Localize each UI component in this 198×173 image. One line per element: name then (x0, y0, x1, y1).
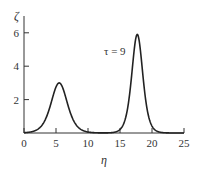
x-tick-label: 5 (53, 137, 59, 149)
chart: 246 0510152025 ζ η τ = 9 (0, 0, 198, 173)
y-tick-label: 4 (14, 60, 20, 72)
x-tick-label: 10 (83, 137, 95, 149)
x-tick-label: 15 (115, 137, 127, 149)
y-tick-label: 6 (14, 27, 20, 39)
y-tick-label: 2 (14, 94, 20, 106)
x-tick-label: 20 (147, 137, 159, 149)
tau-annotation: τ = 9 (104, 45, 126, 57)
x-axis-label: η (101, 153, 107, 167)
y-axis-label: ζ (14, 9, 20, 23)
x-tick-label: 25 (179, 137, 191, 149)
x-ticks: 0510152025 (21, 128, 190, 149)
y-ticks: 246 (14, 27, 30, 106)
x-tick-label: 0 (21, 137, 27, 149)
